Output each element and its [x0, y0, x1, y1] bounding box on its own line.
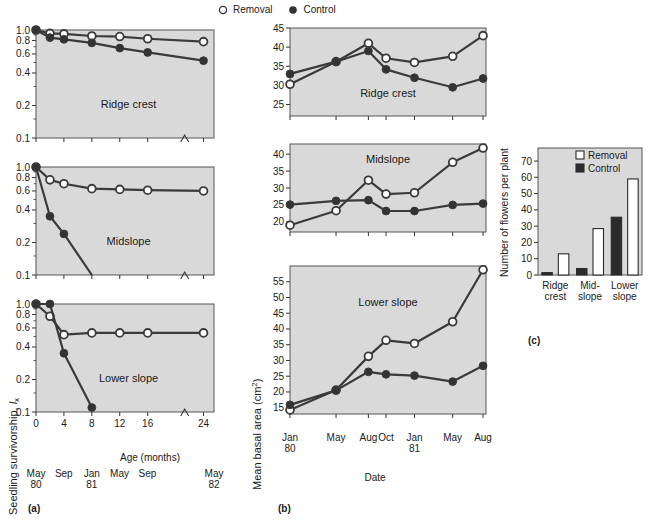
data-point-control [116, 44, 124, 52]
y-tick-label: 30 [273, 80, 285, 91]
date-label-group: Sep [129, 468, 165, 479]
y-tick-label: 30 [273, 355, 285, 366]
x-category-label: Ridge [542, 280, 569, 291]
data-point-control [60, 35, 68, 43]
panel-a-ridge-crest: 1.00.80.60.40.20.1Ridge crest [16, 25, 214, 144]
data-point-removal [332, 207, 340, 215]
data-point-control [449, 201, 457, 209]
panel-a-ylabel-text: Seedling survivorship, [7, 404, 19, 515]
y-tick-label: 30 [521, 221, 533, 232]
y-tick-label: 20 [273, 216, 285, 227]
data-point-control [46, 34, 54, 42]
date-label-month: Jan [272, 432, 308, 443]
y-tick-label: 20 [521, 237, 533, 248]
bar-removal [558, 254, 569, 275]
panel-a-label: (a) [28, 503, 40, 514]
panel-a: 1.00.80.60.40.20.1Ridge crest1.00.80.60.… [0, 22, 250, 442]
date-label-year: 81 [74, 479, 110, 490]
y-tick-label: 60 [521, 172, 533, 183]
data-point-control [32, 26, 40, 34]
data-point-removal [116, 33, 124, 41]
data-point-removal [382, 336, 390, 344]
plot-area [36, 30, 214, 138]
x-category-label: Mid- [580, 280, 599, 291]
data-point-removal [449, 318, 457, 326]
bar-control [577, 268, 588, 275]
date-label-month: Sep [129, 468, 165, 479]
data-point-control [88, 404, 96, 412]
data-point-control [88, 39, 96, 47]
date-label-month: May [196, 468, 232, 479]
y-tick-label: 45 [273, 23, 285, 34]
data-point-removal [411, 340, 419, 348]
data-point-control [332, 58, 340, 66]
data-point-control [449, 378, 457, 386]
data-point-removal [200, 187, 208, 195]
data-point-control [365, 368, 373, 376]
y-tick-label: 45 [273, 308, 285, 319]
panel-title: Ridge crest [101, 98, 157, 110]
data-point-control [286, 70, 294, 78]
y-tick-label: 25 [273, 371, 285, 382]
x-category-label: Lower [611, 280, 639, 291]
data-point-removal [479, 32, 487, 40]
data-point-control [286, 401, 294, 409]
data-point-control [332, 197, 340, 205]
y-tick-label: 0.2 [16, 237, 30, 248]
panel-b-lower-slope: 152025303540455055Lower slope [273, 266, 487, 418]
data-point-removal [365, 176, 373, 184]
data-point-control [60, 230, 68, 238]
panel-b-xlabel: Date [300, 472, 450, 483]
y-tick-label: 35 [273, 339, 285, 350]
y-tick-label: 35 [273, 61, 285, 72]
panel-a-midslope: 1.00.80.60.40.20.1Midslope [16, 162, 214, 281]
y-tick-label: 30 [273, 183, 285, 194]
panel-b: 2530354045Ridge crest2025303540Midslope1… [246, 22, 496, 432]
panel-a-date-axis: May80SepJan81MaySepMay82 [0, 468, 250, 498]
date-label-year: 81 [396, 443, 432, 454]
data-point-removal [200, 38, 208, 46]
x-tick-label: 4 [61, 418, 67, 429]
y-tick-label: 25 [273, 99, 285, 110]
data-point-removal [365, 352, 373, 360]
data-point-control [60, 349, 68, 357]
panel-b-date-axis: Jan80MayAugOctJan81MayAug [246, 432, 496, 462]
y-tick-label: 0.6 [16, 48, 30, 59]
data-point-control [479, 75, 487, 83]
data-point-control [32, 300, 40, 308]
y-tick-label: 70 [521, 156, 533, 167]
panel-title: Lower slope [99, 372, 158, 384]
date-label-year: 82 [196, 479, 232, 490]
data-point-control [411, 372, 419, 380]
data-point-control [411, 207, 419, 215]
y-tick-label: 40 [273, 149, 285, 160]
filled-circle-marker-icon [288, 5, 298, 15]
data-point-removal [449, 158, 457, 166]
data-point-control [411, 74, 419, 82]
data-point-removal [144, 186, 152, 194]
y-tick-label: 40 [521, 204, 533, 215]
y-tick-label: 15 [273, 402, 285, 413]
data-point-removal [88, 329, 96, 337]
y-tick-label: 0.1 [16, 133, 30, 144]
data-point-control [46, 212, 54, 220]
data-point-control [479, 362, 487, 370]
panel-a-xlabel: Age (months) [60, 452, 240, 463]
panel-b-plots: 2530354045Ridge crest2025303540Midslope1… [246, 22, 496, 432]
y-tick-label: 50 [273, 292, 285, 303]
y-tick-label: 55 [273, 276, 285, 287]
data-point-removal [382, 54, 390, 62]
data-point-removal [88, 185, 96, 193]
date-label-month: May [318, 432, 354, 443]
panel-b-ridge-crest: 2530354045Ridge crest [273, 23, 487, 121]
x-tick-label: 8 [89, 418, 95, 429]
date-label-group: Aug [465, 432, 501, 443]
plot-area [36, 304, 214, 412]
data-point-removal [60, 180, 68, 188]
y-tick-label: 0.6 [16, 185, 30, 196]
data-point-removal [60, 331, 68, 339]
bar-control [542, 273, 553, 275]
y-tick-label: 25 [273, 199, 285, 210]
figure-legend: Removal Control [218, 4, 336, 15]
panel-title: Ridge crest [360, 87, 416, 99]
